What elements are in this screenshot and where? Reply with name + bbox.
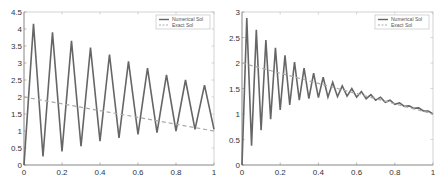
y-tick-label: 2 [236, 59, 241, 68]
right-plot: 00.20.40.60.8100.511.522.53Numerical Sol… [229, 8, 436, 177]
legend: Numerical SolExact Sol [375, 15, 429, 29]
y-tick-label: 4.5 [11, 8, 23, 17]
x-tick-label: 0.8 [170, 168, 182, 177]
y-tick-label: 0 [236, 161, 241, 170]
chart-figure: 00.20.40.60.8100.511.522.533.544.5Numeri… [0, 0, 447, 185]
legend: Numerical SolExact Sol [156, 15, 210, 29]
y-tick-label: 4 [18, 25, 23, 34]
x-tick-label: 1 [212, 168, 217, 177]
x-tick-label: 0.2 [275, 168, 287, 177]
x-tick-label: 0.6 [132, 168, 144, 177]
x-tick-label: 1 [431, 168, 436, 177]
y-tick-label: 1 [236, 110, 241, 119]
left-plot: 00.20.40.60.8100.511.522.533.544.5Numeri… [11, 8, 217, 177]
x-tick-label: 0.4 [94, 168, 106, 177]
y-tick-label: 0.5 [229, 136, 241, 145]
y-tick-label: 1.5 [229, 85, 241, 94]
legend-label: Exact Sol [391, 22, 412, 28]
y-tick-label: 1.5 [11, 110, 23, 119]
x-tick-label: 0.4 [313, 168, 325, 177]
x-tick-label: 0 [22, 168, 27, 177]
x-tick-label: 0 [240, 168, 245, 177]
y-tick-label: 3 [236, 8, 241, 17]
y-tick-label: 0.5 [11, 144, 23, 153]
y-tick-label: 2.5 [11, 76, 23, 85]
y-tick-label: 2 [18, 93, 23, 102]
y-tick-label: 2.5 [229, 34, 241, 43]
x-tick-label: 0.6 [351, 168, 363, 177]
y-tick-label: 0 [18, 161, 23, 170]
legend-label: Exact Sol [172, 22, 193, 28]
x-tick-label: 0.8 [389, 168, 401, 177]
x-tick-label: 0.2 [56, 168, 68, 177]
y-tick-label: 1 [18, 127, 23, 136]
y-tick-label: 3 [18, 59, 23, 68]
y-tick-label: 3.5 [11, 42, 23, 51]
